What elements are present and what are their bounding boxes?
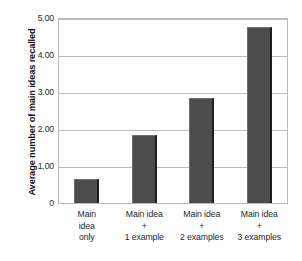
x-label-0-line-1: idea <box>58 221 116 233</box>
bar-main-idea-3-examples <box>247 27 272 203</box>
bar-main-idea-2-examples <box>189 98 214 203</box>
y-tick-label-4: 4.00 <box>14 50 54 60</box>
x-label-1-line-1: + <box>116 221 174 233</box>
y-tick-label-5: 5.00 <box>14 13 54 23</box>
bar-chart: Average number of main ideas recalled 5.… <box>0 0 302 261</box>
y-axis-title: Average number of main ideas recalled <box>27 17 37 207</box>
x-label-2: Main idea + 2 examples <box>173 206 231 258</box>
x-label-0-line-0: Main <box>58 209 116 221</box>
x-label-0-line-2: only <box>58 232 116 244</box>
y-tick-label-2: 2.00 <box>14 124 54 134</box>
x-label-0: Main idea only <box>58 206 116 258</box>
x-label-3-line-2: 3 examples <box>231 232 289 244</box>
bar-main-idea-only <box>74 179 99 203</box>
x-label-1: Main idea + 1 example <box>116 206 174 258</box>
x-label-1-line-0: Main idea <box>116 209 174 221</box>
bar-main-idea-1-example <box>132 135 157 203</box>
y-tick-label-3: 3.00 <box>14 87 54 97</box>
x-label-2-line-1: + <box>173 221 231 233</box>
x-label-2-line-2: 2 examples <box>173 232 231 244</box>
x-label-1-line-2: 1 example <box>116 232 174 244</box>
x-label-3-line-1: + <box>231 221 289 233</box>
x-label-3: Main idea + 3 examples <box>231 206 289 258</box>
bars-layer <box>58 18 288 203</box>
x-label-2-line-0: Main idea <box>173 209 231 221</box>
y-tick-label-0: 0 <box>14 198 54 208</box>
x-axis-labels: Main idea only Main idea + 1 example Mai… <box>58 206 288 258</box>
y-tick-label-1: 1.00 <box>14 161 54 171</box>
x-label-3-line-0: Main idea <box>231 209 289 221</box>
